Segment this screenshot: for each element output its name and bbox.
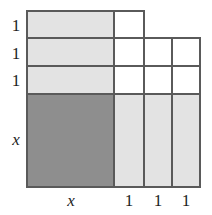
row-label-x: x [6,131,26,148]
cell-r2c4-unit [172,38,200,66]
cell-r2c2-unit [114,38,144,66]
cell-r3c4-unit [172,66,200,94]
area-model-figure [0,0,212,215]
cell-r1c2-unit [114,11,144,38]
row-label-2: 1 [6,45,26,62]
cell-r3c2-unit [114,66,144,94]
cell-r3c1-x-times-1 [27,66,114,94]
cell-r4c2-1-times-x [114,94,144,187]
column-label-x: x [58,192,84,209]
cell-r4c1-x-squared [27,94,114,187]
cell-r3c3-unit [144,66,172,94]
row-label-1: 1 [6,17,26,34]
row-label-3: 1 [6,72,26,89]
column-label-1-second: 1 [147,192,169,209]
column-label-1-third: 1 [175,192,197,209]
cell-r4c3-1-times-x [144,94,172,187]
cell-r2c1-x-times-1 [27,38,114,66]
cell-r2c3-unit [144,38,172,66]
column-label-1-first: 1 [118,192,140,209]
cell-r4c4-1-times-x [172,94,200,187]
cell-r1c1-x-times-1 [27,11,114,38]
